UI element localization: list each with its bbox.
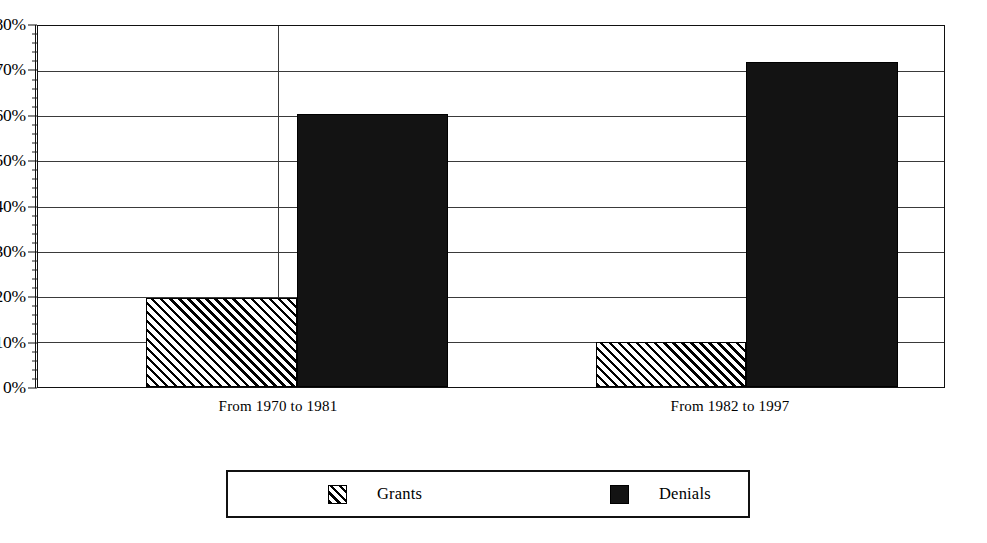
y-major-tick-80 bbox=[28, 25, 37, 26]
y-major-tick-10 bbox=[28, 342, 37, 343]
plot-area bbox=[37, 25, 945, 388]
legend: Grants Denials bbox=[226, 470, 750, 518]
y-tick-label-20: 20% bbox=[0, 289, 26, 307]
diagonal-hatch-swatch-icon bbox=[328, 485, 347, 504]
bar-grants-1970-1981 bbox=[146, 298, 297, 387]
legend-entry-denials: Denials bbox=[610, 484, 711, 504]
bar-denials-1970-1981 bbox=[297, 114, 448, 387]
y-tick-label-10: 10% bbox=[0, 334, 26, 352]
y-major-tick-60 bbox=[28, 115, 37, 116]
legend-entry-grants: Grants bbox=[328, 484, 422, 504]
solid-black-swatch-icon bbox=[610, 485, 629, 504]
y-major-tick-50 bbox=[28, 161, 37, 162]
y-axis: 80% 70% 60% 50% 40% 30% 20% 10% 0% bbox=[0, 0, 37, 543]
y-tick-label-40: 40% bbox=[0, 198, 26, 216]
y-tick-label-80: 80% bbox=[0, 16, 26, 34]
y-tick-label-50: 50% bbox=[0, 152, 26, 170]
y-major-tick-30 bbox=[28, 251, 37, 252]
legend-label-denials: Denials bbox=[659, 484, 711, 504]
category-label-1982-1997: From 1982 to 1997 bbox=[671, 398, 790, 415]
y-tick-label-60: 60% bbox=[0, 107, 26, 125]
category-label-1970-1981: From 1970 to 1981 bbox=[219, 398, 338, 415]
bar-denials-1982-1997 bbox=[746, 62, 898, 387]
y-major-tick-20 bbox=[28, 297, 37, 298]
bar-chart: 80% 70% 60% 50% 40% 30% 20% 10% 0% bbox=[0, 0, 987, 543]
y-tick-label-0: 0% bbox=[3, 379, 26, 397]
bar-grants-1982-1997 bbox=[596, 342, 746, 387]
legend-label-grants: Grants bbox=[377, 484, 422, 504]
y-tick-label-70: 70% bbox=[0, 62, 26, 80]
y-major-tick-70 bbox=[28, 70, 37, 71]
y-tick-label-30: 30% bbox=[0, 243, 26, 261]
y-major-tick-40 bbox=[28, 206, 37, 207]
y-major-tick-0 bbox=[28, 388, 37, 389]
